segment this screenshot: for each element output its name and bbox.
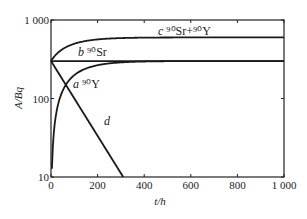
y-tick-label: 1 000 bbox=[24, 14, 49, 26]
x-tick-label: 0 bbox=[48, 179, 54, 191]
series-label-c: c ⁹⁰Sr+⁹⁰Y bbox=[158, 24, 211, 38]
series-label-a: a ⁹⁰Y bbox=[73, 77, 100, 91]
x-tick-label: 200 bbox=[89, 179, 106, 191]
x-tick-label: 800 bbox=[229, 179, 246, 191]
decay-chart: 02004006008001 000101001 000t/hA/Bq a ⁹⁰… bbox=[0, 0, 307, 219]
series-label-b: b ⁹⁰Sr bbox=[78, 45, 107, 59]
x-tick-label: 1 000 bbox=[272, 179, 297, 191]
axes: 02004006008001 000101001 000t/hA/Bq bbox=[12, 14, 297, 207]
y-tick-label: 10 bbox=[38, 171, 50, 183]
y-tick-label: 100 bbox=[33, 93, 50, 105]
x-tick-label: 400 bbox=[136, 179, 153, 191]
x-tick-label: 600 bbox=[183, 179, 200, 191]
series-label-d: d bbox=[104, 114, 111, 128]
plot-frame bbox=[51, 20, 284, 177]
y-axis-label: A/Bq bbox=[12, 87, 24, 110]
x-axis-label: t/h bbox=[154, 195, 166, 207]
